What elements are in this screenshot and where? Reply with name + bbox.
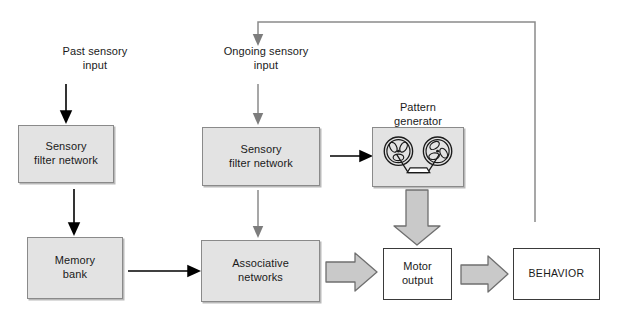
caption-pattern-generator: Pattern generator (372, 100, 464, 129)
box-sensory-filter-network-mid[interactable]: Sensory filter network (202, 127, 320, 186)
block-arrow-motor-output-to-behavior (461, 256, 508, 292)
block-arrow-pattern-generator-to-motor-output (394, 190, 440, 245)
box-label: Associative networks (232, 257, 289, 285)
box-label: BEHAVIOR (529, 267, 585, 280)
pattern-generator-rotors-icon (373, 127, 463, 187)
box-behavior[interactable]: BEHAVIOR (513, 248, 600, 300)
block-diagram: Past sensory input Ongoing sensory input… (0, 0, 618, 320)
box-label: Motor output (402, 260, 433, 288)
box-sensory-filter-network-left[interactable]: Sensory filter network (18, 125, 114, 183)
box-label: Sensory filter network (229, 143, 293, 171)
box-motor-output[interactable]: Motor output (383, 248, 452, 300)
caption-ongoing-sensory-input: Ongoing sensory input (194, 44, 338, 73)
caption-past-sensory-input: Past sensory input (30, 44, 160, 73)
box-label: Sensory filter network (34, 140, 98, 168)
box-memory-bank[interactable]: Memory bank (27, 237, 123, 299)
box-pattern-generator[interactable] (372, 127, 464, 187)
box-label: Memory bank (55, 254, 95, 282)
box-associative-networks[interactable]: Associative networks (201, 240, 320, 302)
block-arrow-associative-networks-to-motor-output (326, 253, 377, 291)
